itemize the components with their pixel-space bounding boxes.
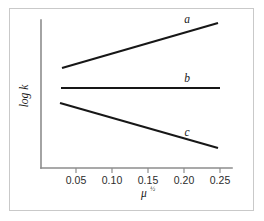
x-tick-label: 0.25 [210,174,231,186]
series-line-a [62,23,218,68]
series-label-c: c [184,126,189,138]
x-axis-title-base: μ [140,187,147,200]
figure-root: 0.05 0.10 0.15 0.20 0.25 a b c log k μ ½ [0,0,264,221]
series-line-c [60,103,218,148]
series-label-b: b [184,72,190,84]
x-axis-title-superscript: ½ [150,185,156,193]
x-tick-label: 0.15 [138,174,159,186]
x-tick-label: 0.05 [66,174,87,186]
x-tick-label: 0.10 [102,174,123,186]
data-series-group [60,23,220,148]
x-tick-label: 0.20 [174,174,195,186]
x-axis-title: μ ½ [140,185,156,200]
x-axis-tick-labels: 0.05 0.10 0.15 0.20 0.25 [66,174,231,186]
chart-plot-area: 0.05 0.10 0.15 0.20 0.25 a b c log k μ ½ [0,0,264,221]
y-axis-title: log k [18,84,31,108]
series-label-a: a [184,13,190,25]
